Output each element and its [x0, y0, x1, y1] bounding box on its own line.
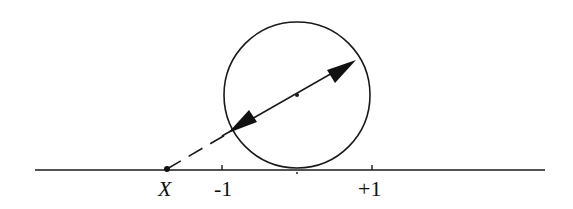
label-minus-one: -1 — [214, 178, 232, 200]
label-plus-one: +1 — [358, 178, 381, 200]
arrowhead-upper-icon — [327, 60, 356, 83]
point-x — [164, 166, 170, 172]
tick-zero — [296, 172, 298, 174]
dashed-line — [167, 131, 232, 169]
diagram-svg — [0, 0, 573, 209]
arrowhead-lower-icon — [228, 110, 257, 133]
diagram-canvas: X -1 +1 — [0, 0, 573, 209]
label-x: X — [158, 178, 171, 200]
